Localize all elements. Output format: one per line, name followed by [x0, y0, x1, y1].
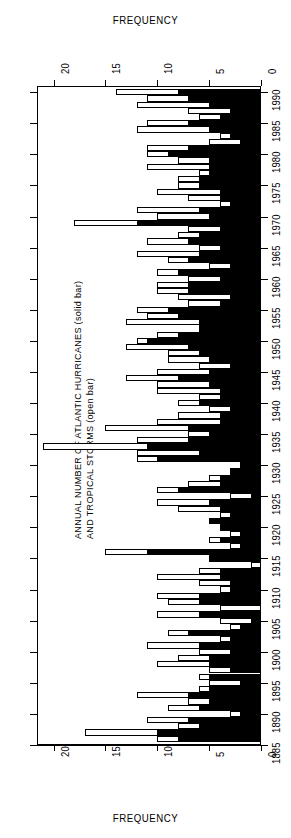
bar-row: [37, 120, 261, 126]
hurricanes-bar: [230, 667, 261, 673]
hurricanes-bar: [230, 133, 261, 139]
hurricanes-bar: [220, 412, 261, 418]
bar-row: [37, 524, 261, 530]
year-tick-right-1910: [261, 590, 268, 591]
bar-row: [37, 269, 261, 275]
year-tick-left-1960: [30, 279, 37, 280]
hurricanes-bar: [209, 518, 261, 524]
year-tick-right-1920: [261, 527, 268, 528]
bar-row: [37, 437, 261, 443]
bar-row: [37, 344, 261, 350]
hurricanes-bar: [209, 164, 261, 170]
hurricanes-bar: [209, 381, 261, 387]
frequency-tick-bottom-10: [157, 745, 158, 751]
year-tick-label-1925: 1925: [270, 494, 282, 516]
hurricanes-bar: [220, 475, 261, 481]
hurricanes-bar: [188, 95, 261, 101]
hurricanes-bar: [188, 282, 261, 288]
year-tick-label-1960: 1960: [270, 276, 282, 298]
bar-row: [37, 182, 261, 188]
hurricanes-bar: [230, 108, 261, 114]
hurricanes-bar: [199, 599, 261, 605]
frequency-axis-caption-bottom: FREQUENCY: [17, 812, 273, 824]
year-tick-label-1950: 1950: [270, 338, 282, 360]
hurricanes-bar: [230, 263, 261, 269]
bar-row: [37, 307, 261, 313]
frequency-tick-bottom-20: [54, 745, 55, 751]
year-tick-label-1985: 1985: [270, 121, 282, 143]
bar-row: [37, 263, 261, 269]
hurricanes-bar: [230, 580, 261, 586]
hurricanes-bar: [240, 711, 261, 717]
hurricanes-bar: [220, 419, 261, 425]
year-tick-right-1960: [261, 279, 268, 280]
hurricanes-bar: [209, 126, 261, 132]
bar-row: [37, 555, 261, 561]
bar-row: [37, 599, 261, 605]
year-tick-right-1950: [261, 341, 268, 342]
hurricanes-bar: [240, 531, 261, 537]
bar-row: [37, 493, 261, 499]
year-tick-label-1965: 1965: [270, 245, 282, 267]
hurricanes-bar: [230, 406, 261, 412]
year-tick-left-1885: [30, 745, 37, 746]
hurricanes-bar: [188, 288, 261, 294]
bar-row: [37, 157, 261, 163]
bar-row: [37, 642, 261, 648]
bar-row: [37, 381, 261, 387]
bar-row: [37, 313, 261, 319]
hurricanes-bar: [199, 705, 261, 711]
frequency-tick-label-top-10: 10: [162, 63, 174, 74]
hurricanes-bar: [220, 189, 261, 195]
bar-row: [37, 736, 261, 742]
hurricanes-bar: [178, 313, 261, 319]
hurricanes-bar: [188, 692, 261, 698]
hurricanes-bar: [188, 145, 261, 151]
year-tick-label-1920: 1920: [270, 525, 282, 547]
bar-row: [37, 649, 261, 655]
bar-row: [37, 655, 261, 661]
bar-row: [37, 667, 261, 673]
year-tick-left-1940: [30, 403, 37, 404]
hurricanes-bar: [137, 220, 261, 226]
bar-row: [37, 686, 261, 692]
hurricanes-bar: [209, 213, 261, 219]
year-tick-right-1965: [261, 248, 268, 249]
frequency-tick-top-0: [261, 80, 262, 86]
hurricanes-bar: [188, 717, 261, 723]
year-tick-left-1945: [30, 372, 37, 373]
hurricanes-bar: [209, 655, 261, 661]
bar-row: [37, 723, 261, 729]
year-tick-right-1975: [261, 185, 268, 186]
bar-row: [37, 499, 261, 505]
tropical-storms-bar: [220, 605, 261, 611]
hurricanes-bar: [199, 251, 261, 257]
frequency-tick-bottom-5: [209, 745, 210, 751]
hurricanes-bar: [240, 139, 261, 145]
hurricanes-bar: [199, 593, 261, 599]
hurricanes-bar: [209, 686, 261, 692]
bar-row: [37, 487, 261, 493]
bar-row: [37, 226, 261, 232]
year-tick-left-1895: [30, 683, 37, 684]
hurricanes-bar: [220, 388, 261, 394]
hurricanes-bar: [220, 226, 261, 232]
year-tick-left-1910: [30, 590, 37, 591]
year-tick-label-1930: 1930: [270, 462, 282, 484]
bar-row: [37, 164, 261, 170]
bar-row: [37, 661, 261, 667]
hurricanes-bar: [209, 157, 261, 163]
bar-row: [37, 189, 261, 195]
bar-row: [37, 456, 261, 462]
bar-row: [37, 531, 261, 537]
hurricanes-bar: [209, 698, 261, 704]
bar-row: [37, 369, 261, 375]
frequency-tick-label-bottom-20: 20: [59, 746, 71, 757]
bar-row: [37, 300, 261, 306]
bar-row: [37, 325, 261, 331]
bar-row: [37, 356, 261, 362]
hurricanes-bar: [199, 450, 261, 456]
hurricanes-bar: [168, 151, 261, 157]
bar-row: [37, 462, 261, 468]
frequency-tick-label-top-20: 20: [59, 63, 71, 74]
